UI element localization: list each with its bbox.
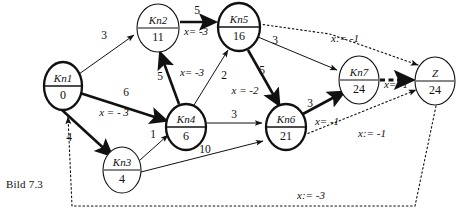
edge-kn2-kn5-weight: 5 [194, 4, 200, 16]
node-kn5-value: 16 [233, 29, 245, 43]
edge-kn5-z: x:= -1 [259, 24, 418, 65]
node-kn1-value: 0 [60, 88, 66, 102]
edge-kn3-kn6-weight: 10 [199, 143, 211, 155]
edge-kn7-z-assign: x= -1 [383, 78, 408, 90]
edge-kn5-kn6: 5 x = -2 [231, 50, 278, 103]
edge-kn6-z-assign: x:= -1 [357, 127, 386, 139]
edge-kn4-kn6-weight: 3 [231, 108, 237, 120]
node-kn4-value: 6 [183, 129, 189, 143]
node-kn3-label: Kn3 [112, 156, 132, 168]
edge-kn2-kn5: 5 x= -3 [180, 4, 213, 37]
edge-kn1-kn2-weight: 3 [101, 29, 107, 41]
edge-kn4-kn2-assign: x= -3 [179, 66, 205, 78]
edge-kn4-kn6: 3 [207, 108, 262, 123]
node-kn6-value: 21 [280, 129, 292, 143]
node-kn1-label: Kn1 [53, 72, 72, 84]
edge-kn4-kn5-weight: 2 [221, 69, 227, 81]
node-kn3[interactable]: Kn3 4 [103, 147, 141, 193]
edge-kn1-kn4-assign: x = - 3 [98, 106, 129, 118]
edge-kn1-kn4-weight: 6 [123, 86, 129, 98]
edge-kn3-kn6: 10 [141, 141, 263, 172]
node-kn6[interactable]: Kn6 21 [266, 104, 306, 150]
node-kn7-value: 24 [353, 82, 365, 96]
node-kn7[interactable]: Kn7 24 [339, 56, 379, 104]
edge-z-kn1-assign: x:= -3 [296, 189, 325, 201]
edge-kn5-z-assign: x:= -1 [330, 32, 359, 44]
node-kn5-label: Kn5 [229, 13, 249, 25]
node-z-label: Z [432, 67, 439, 79]
node-kn2[interactable]: Kn2 11 [137, 4, 179, 52]
node-kn2-label: Kn2 [148, 14, 168, 26]
graph-diagram: 3 6 x = - 3 4 5 x= -3 2 5 x= -3 [0, 0, 456, 222]
edge-kn5-kn6-assign: x = -2 [231, 84, 259, 96]
figure-caption: Bild 7.3 [6, 178, 43, 190]
edge-kn1-kn4: 6 x = - 3 [80, 86, 164, 120]
node-z-value: 24 [429, 83, 441, 97]
node-z[interactable]: Z 24 [415, 57, 455, 105]
node-kn7-label: Kn7 [349, 66, 369, 78]
edge-kn4-kn2: 5 x= -3 [157, 55, 204, 104]
edge-kn3-kn4-weight: 1 [150, 128, 156, 140]
edge-kn1-kn2: 3 [79, 29, 134, 74]
edge-kn5-kn6-weight: 5 [259, 64, 265, 76]
edge-kn2-kn5-assign: x= -3 [183, 25, 209, 37]
node-kn6-label: Kn6 [276, 113, 296, 125]
edge-kn7-z: x= -1 [380, 78, 410, 90]
node-kn3-value: 4 [119, 172, 125, 186]
node-kn1[interactable]: Kn1 0 [44, 62, 82, 110]
edge-kn3-kn4: 1 [140, 128, 168, 160]
node-kn2-value: 11 [152, 30, 164, 44]
node-kn4-label: Kn4 [176, 113, 196, 125]
edge-kn6-kn7-assign: x= -1 [314, 115, 339, 127]
edge-kn5-kn7-weight: 3 [272, 34, 278, 46]
edge-kn5-kn7: 3 [258, 34, 337, 70]
figure-canvas: 3 6 x = - 3 4 5 x= -3 2 5 x= -3 [0, 0, 456, 222]
edge-kn6-kn7-weight: 3 [307, 97, 313, 109]
node-kn5[interactable]: Kn5 16 [218, 3, 260, 51]
node-kn4[interactable]: Kn4 6 [166, 104, 206, 150]
edge-kn4-kn2-weight: 5 [157, 70, 163, 82]
